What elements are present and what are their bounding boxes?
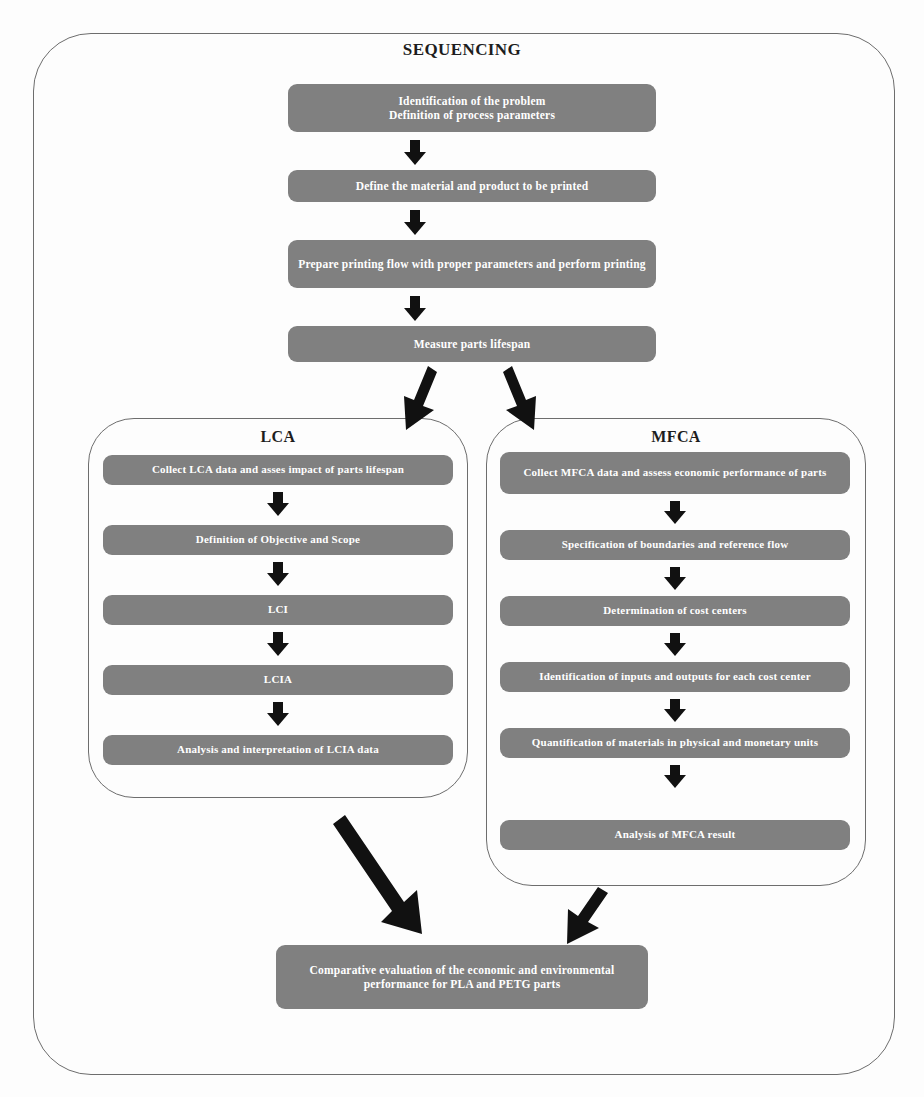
process-box-final-comparative-evaluation: Comparative evaluation of the economic a… bbox=[276, 945, 648, 1009]
process-box-lca-5: Analysis and interpretation of LCIA data bbox=[103, 735, 453, 765]
process-box-seq-4: Measure parts lifespan bbox=[288, 326, 656, 362]
process-box-lca-4: LCIA bbox=[103, 665, 453, 695]
flowchart-canvas: SEQUENCING Identification of the problem… bbox=[0, 0, 924, 1097]
process-box-seq-3: Prepare printing flow with proper parame… bbox=[288, 240, 656, 288]
process-box-mfca-4: Identification of inputs and outputs for… bbox=[500, 662, 850, 692]
process-box-lca-2: Definition of Objective and Scope bbox=[103, 525, 453, 555]
process-box-mfca-3: Determination of cost centers bbox=[500, 596, 850, 626]
process-box-mfca-6: Analysis of MFCA result bbox=[500, 820, 850, 850]
process-box-mfca-1: Collect MFCA data and assess economic pe… bbox=[500, 452, 850, 494]
section-title-sequencing: SEQUENCING bbox=[0, 40, 924, 60]
section-title-mfca: MFCA bbox=[486, 428, 866, 446]
process-box-mfca-5: Quantification of materials in physical … bbox=[500, 728, 850, 758]
process-box-seq-1: Identification of the problem Definition… bbox=[288, 84, 656, 132]
process-box-lca-1: Collect LCA data and asses impact of par… bbox=[103, 455, 453, 485]
section-title-lca: LCA bbox=[88, 428, 468, 446]
process-box-lca-3: LCI bbox=[103, 595, 453, 625]
process-box-seq-2: Define the material and product to be pr… bbox=[288, 170, 656, 202]
process-box-mfca-2: Specification of boundaries and referenc… bbox=[500, 530, 850, 560]
